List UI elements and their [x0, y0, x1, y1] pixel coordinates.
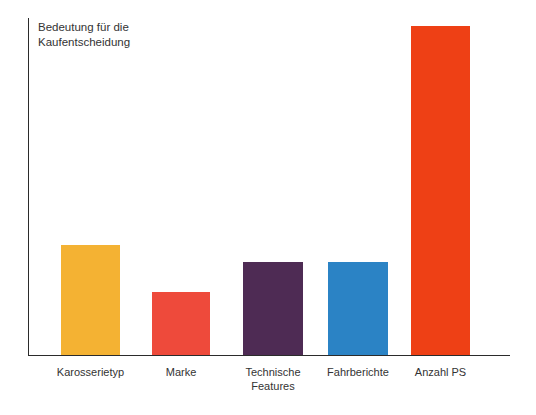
bar-chart: Bedeutung für die Kaufentscheidung Karos…	[0, 0, 536, 415]
bar-group: Fahrberichte	[328, 18, 388, 355]
bar	[243, 262, 303, 355]
bar-group: Marke	[152, 18, 210, 355]
bar-group: Karosserietyp	[61, 18, 120, 355]
bar-group: Technische Features	[243, 18, 303, 355]
x-axis-line	[28, 355, 510, 356]
bar	[328, 262, 388, 355]
plot-area: KarosserietypMarkeTechnische FeaturesFah…	[29, 18, 510, 355]
bar-group: Anzahl PS	[411, 18, 470, 355]
bar	[152, 292, 210, 355]
bar	[411, 26, 470, 355]
bar-category-label: Anzahl PS	[381, 365, 501, 379]
bar	[61, 245, 120, 355]
